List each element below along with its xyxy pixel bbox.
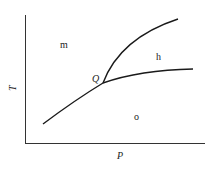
curve-boundary-m-o [43, 83, 103, 124]
region-label-m: m [60, 39, 68, 50]
region-label-o: o [134, 111, 139, 122]
region-label-h: h [156, 51, 161, 62]
phase-diagram: m h o Q P T [0, 0, 214, 169]
point-label-q: Q [92, 73, 100, 84]
curve-boundary-h-o [103, 69, 193, 83]
y-axis-label: T [7, 84, 18, 91]
x-axis-label: P [116, 150, 123, 161]
